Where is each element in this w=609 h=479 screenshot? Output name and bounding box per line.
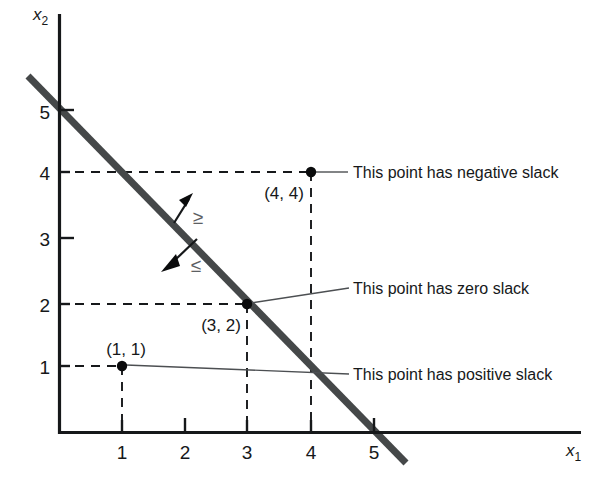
y-tick-label-1: 1: [39, 357, 50, 378]
point-dot-3-2[interactable]: [242, 299, 252, 309]
less-equal-symbol: ≤: [191, 255, 201, 276]
x-tick-label-3: 3: [242, 442, 253, 463]
ge-arrow-head: [179, 193, 193, 207]
y-tick-labels: 5 4 3 2 1: [39, 102, 50, 378]
constraint-boundary-line: [28, 76, 406, 463]
y-axis-label-main: x: [32, 5, 42, 24]
point-label-3-2: (3, 2): [201, 316, 241, 335]
x-tick-label-5: 5: [369, 442, 380, 463]
callout-zero-slack: This point has zero slack: [353, 280, 530, 297]
y-tick-label-3: 3: [39, 229, 50, 250]
guide-lines: [59, 172, 311, 433]
x-tick-labels: 1 2 3 4 5: [117, 442, 380, 463]
callout-texts: This point has negative slack This point…: [353, 164, 559, 383]
greater-equal-symbol: ≥: [193, 207, 203, 228]
leader-zero-slack: [251, 288, 349, 303]
point-dot-4-4[interactable]: [306, 167, 316, 177]
x-axis-label: x1: [565, 441, 582, 464]
callout-positive-slack: This point has positive slack: [353, 366, 553, 383]
slack-illustration-figure: 5 4 3 2 1 1 2 3 4 5 x2 x1 ≥ ≤: [0, 0, 609, 479]
y-axis-label-subscript: 2: [42, 14, 49, 28]
y-tick-label-4: 4: [39, 163, 50, 184]
x-axis-label-subscript: 1: [575, 450, 582, 464]
x-axis-label-main: x: [565, 441, 575, 460]
x-tick-label-2: 2: [180, 442, 191, 463]
point-label-1-1: (1, 1): [106, 340, 146, 359]
y-tick-label-2: 2: [39, 295, 50, 316]
callout-negative-slack: This point has negative slack: [353, 164, 559, 181]
x-tick-label-1: 1: [117, 442, 128, 463]
plot-canvas: 5 4 3 2 1 1 2 3 4 5 x2 x1 ≥ ≤: [0, 0, 609, 479]
y-tick-label-5: 5: [39, 102, 50, 123]
callout-leaders: [126, 172, 349, 374]
point-dot-1-1[interactable]: [117, 361, 127, 371]
axis-names: x2 x1: [32, 5, 582, 464]
y-axis-label: x2: [32, 5, 49, 28]
point-label-4-4: (4, 4): [264, 184, 304, 203]
x-tick-label-4: 4: [306, 442, 317, 463]
